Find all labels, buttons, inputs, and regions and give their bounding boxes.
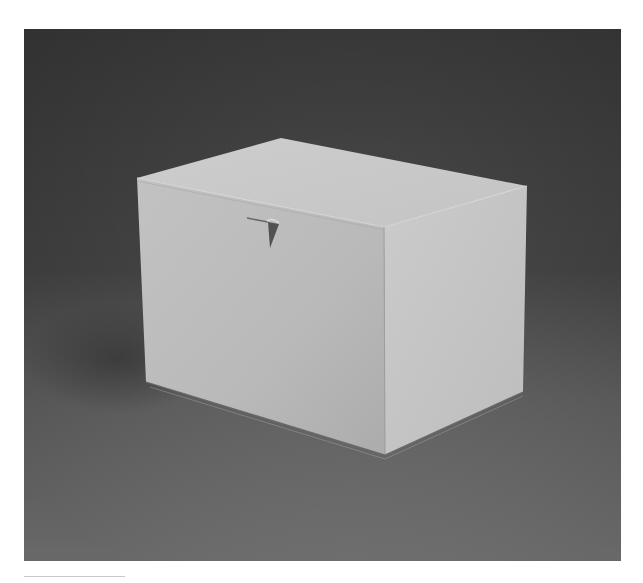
box-photograph: Photograph of a closed white rectangular… xyxy=(24,29,621,561)
box-illustration xyxy=(24,29,621,561)
divider-line xyxy=(24,576,125,577)
